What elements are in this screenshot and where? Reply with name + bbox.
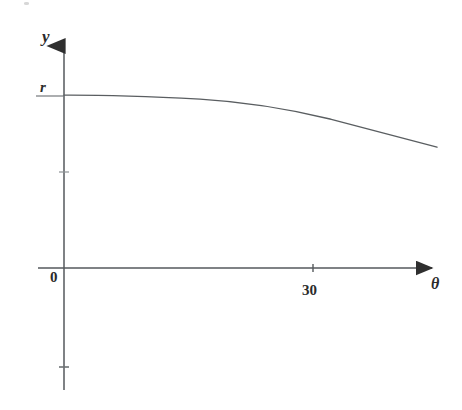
y-axis: [59, 46, 69, 390]
data-curve: [64, 95, 437, 147]
theta-axis-label: θ: [431, 276, 439, 292]
graph-figure: y r θ 0 30: [0, 0, 462, 410]
r-level-label: r: [40, 80, 46, 95]
y-axis-label: y: [42, 28, 50, 45]
scan-artifact-speck: [24, 2, 29, 5]
coordinate-plot: [0, 0, 462, 410]
origin-label: 0: [50, 270, 58, 285]
x-axis: [38, 264, 432, 272]
x-axis-tick-label-30: 30: [302, 283, 317, 298]
